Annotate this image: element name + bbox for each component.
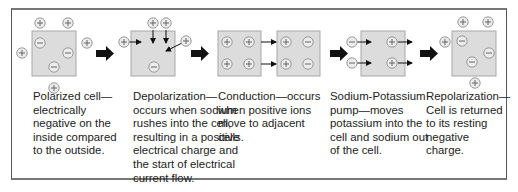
caption-pump: Sodium-Potassium pump—moves potassium in… bbox=[330, 90, 428, 158]
cell-pump bbox=[361, 31, 405, 76]
caption-repolarization: Repolarization— Cell is returned to its … bbox=[426, 90, 510, 158]
step-arrow-icon bbox=[330, 46, 348, 61]
step-arrow-icon bbox=[420, 46, 438, 61]
caption-conduction: Conduction—occurs when positive ions mov… bbox=[218, 90, 321, 144]
step-arrow-icon bbox=[191, 46, 209, 61]
step-arrow-icon bbox=[96, 46, 114, 61]
caption-polarized: Polarized cell— electrically negative on… bbox=[33, 90, 117, 158]
